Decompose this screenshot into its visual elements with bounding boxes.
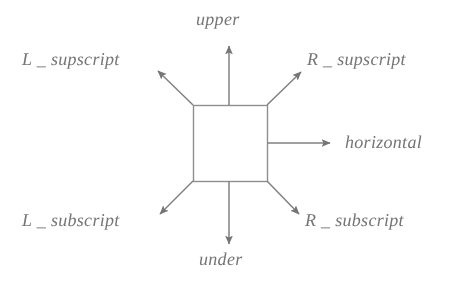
label-horizontal: horizontal [345, 133, 422, 151]
direction-labels-diagram: upper under horizontal L _ supscript R _… [0, 0, 472, 284]
left-subscript-arrow [160, 181, 193, 214]
label-right-supscript: R _ supscript [307, 50, 406, 68]
label-under: under [199, 250, 243, 268]
left-supscript-arrow [158, 71, 193, 105]
label-left-subscript: L _ subscript [22, 211, 120, 229]
label-upper: upper [196, 10, 240, 28]
label-right-subscript: R _ subscript [305, 211, 404, 229]
right-subscript-arrow [267, 181, 299, 214]
center-square [194, 106, 268, 182]
right-supscript-arrow [267, 72, 301, 105]
label-left-supscript: L _ supscript [22, 50, 120, 68]
